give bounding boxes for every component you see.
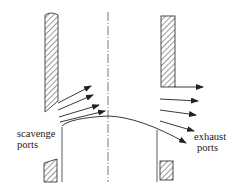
exhaust-ports-label: exhaust ports xyxy=(194,131,226,153)
scavenge-label-line2: ports xyxy=(17,139,55,150)
left-upper-wall xyxy=(45,13,58,112)
scavenge-ports-label: scavenge ports xyxy=(17,128,55,150)
flow-curve xyxy=(62,116,186,143)
scavenge-arrow-1 xyxy=(58,86,91,103)
exhaust-arrow-4 xyxy=(160,121,194,131)
right-lower-wall xyxy=(160,161,173,180)
exhaust-label-line1: exhaust xyxy=(194,131,226,142)
exhaust-arrow-2 xyxy=(160,99,198,101)
right-upper-wall xyxy=(161,16,175,87)
cylinder-diagram xyxy=(0,0,240,192)
scavenge-arrow-2 xyxy=(58,95,93,110)
scavenge-label-line1: scavenge xyxy=(17,128,55,139)
left-lower-wall xyxy=(44,159,57,182)
exhaust-arrow-3 xyxy=(160,110,196,115)
exhaust-label-line2: ports xyxy=(194,142,226,153)
